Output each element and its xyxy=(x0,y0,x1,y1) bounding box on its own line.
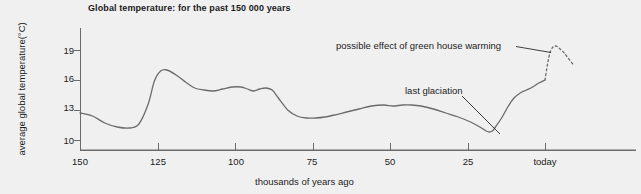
temperature-chart-figure: Global temperature: for the past 150 000… xyxy=(0,0,641,194)
chart-plot-canvas xyxy=(0,0,641,194)
